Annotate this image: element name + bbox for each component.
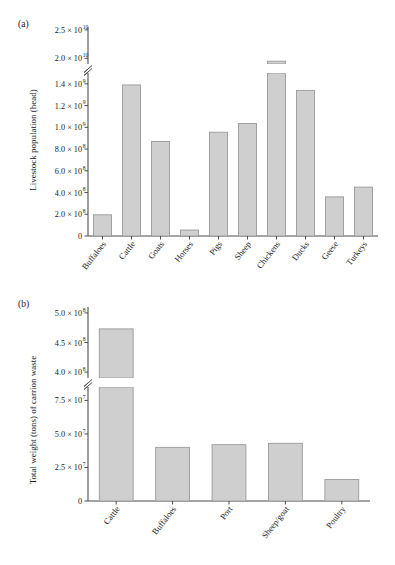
x-axis-labels-a: BuffaloesCattleGoatsHorsesPigsSheepChick… <box>80 236 370 271</box>
y-tick-exponent: 7 <box>83 428 86 434</box>
panel-label-a: (a) <box>18 19 29 30</box>
y-tick-label: 2.0 × 10 <box>55 210 82 219</box>
bar-upper-segment <box>99 329 133 378</box>
bar <box>210 132 228 236</box>
y-tick-label: 2.5 × 10 <box>55 463 82 472</box>
bar <box>181 230 199 236</box>
x-tick-label: Turkeys <box>344 239 369 268</box>
y-tick-exponent: 7 <box>83 394 86 400</box>
y-tick-exponent: 8 <box>83 165 86 171</box>
x-tick-label: Ducks <box>290 239 312 263</box>
bar <box>152 141 170 236</box>
y-tick-exponent: 9 <box>83 78 86 84</box>
x-tick-label: Sheep <box>232 239 253 262</box>
axis-break-gap <box>89 64 378 73</box>
y-tick-exponent: 8 <box>83 208 86 214</box>
x-tick-label: Chickens <box>255 239 283 271</box>
y-tick-label: 4.0 × 10 <box>55 189 82 198</box>
svg-text:Livestock population (head): Livestock population (head) <box>28 89 38 190</box>
bar-upper-segment <box>268 61 286 64</box>
chart-panel-a: (a) Livestock population (head) 02.0 × 1… <box>0 0 395 290</box>
y-axis-ticks-a: 02.0 × 1084.0 × 1086.0 × 1088.0 × 1081.0… <box>55 24 89 241</box>
svg-text:Total weight (tons) of carrion: Total weight (tons) of carrion waste <box>28 356 38 485</box>
x-tick-label: Cattle <box>117 239 138 261</box>
panel-label-b: (b) <box>18 299 29 310</box>
x-tick-label: Geese <box>319 239 340 262</box>
bar-lower-segment <box>268 73 286 236</box>
y-tick-label: 4.5 × 10 <box>55 339 82 348</box>
bar-lower-segment <box>99 387 133 501</box>
x-axis-labels-b: CattleBuffaloesPortSheep/goatPoultry <box>101 501 348 540</box>
y-tick-label: 1.4 × 10 <box>55 80 82 89</box>
x-tick-label: Poultry <box>324 504 348 531</box>
y-tick-label: 0 <box>78 232 82 241</box>
bar-series-b <box>84 329 370 501</box>
chart-svg-b: (b) Total weight (tons) of carrion waste… <box>0 285 395 565</box>
y-tick-label: 4.0 × 10 <box>55 368 82 377</box>
y-tick-label: 5.0 × 10 <box>55 309 82 318</box>
bar <box>123 85 141 236</box>
y-tick-label: 6.0 × 10 <box>55 167 82 176</box>
y-tick-exponent: 8 <box>83 366 86 372</box>
bar <box>156 447 190 501</box>
x-tick-label: Buffaloes <box>80 239 109 272</box>
axis-break-gap <box>89 378 370 387</box>
bar <box>326 197 344 236</box>
bar <box>297 90 315 236</box>
x-tick-label: Cattle <box>101 504 122 526</box>
bar <box>94 215 112 236</box>
y-axis-ticks-b: 02.5 × 1075.0 × 1077.5 × 1074.0 × 1084.5… <box>55 307 88 506</box>
y-tick-exponent: 7 <box>83 461 86 467</box>
y-tick-exponent: 9 <box>83 99 86 105</box>
x-tick-label: Goats <box>146 239 167 261</box>
figure-page: (a) Livestock population (head) 02.0 × 1… <box>0 0 395 565</box>
y-tick-label: 2.5 × 10 <box>55 26 82 35</box>
y-axis-title-a: Livestock population (head) <box>28 89 38 190</box>
y-tick-label: 0 <box>78 497 82 506</box>
y-tick-label: 1.0 × 10 <box>55 123 82 132</box>
bar <box>212 445 246 501</box>
y-tick-exponent: 8 <box>83 336 86 342</box>
y-tick-label: 5.0 × 10 <box>55 430 82 439</box>
chart-svg-a: (a) Livestock population (head) 02.0 × 1… <box>0 0 395 290</box>
y-tick-label: 1.2 × 10 <box>55 102 82 111</box>
y-tick-exponent: 8 <box>83 143 86 149</box>
y-tick-label: 8.0 × 10 <box>55 145 82 154</box>
x-tick-label: Horses <box>172 239 195 264</box>
x-tick-label: Buffaloes <box>150 504 179 537</box>
bar <box>355 187 373 236</box>
bar <box>268 443 302 501</box>
y-axis-title-b: Total weight (tons) of carrion waste <box>28 356 38 485</box>
x-tick-label: Sheep/goat <box>260 504 292 541</box>
bar <box>239 124 257 236</box>
y-tick-exponent: 9 <box>83 121 86 127</box>
y-tick-exponent: 8 <box>83 186 86 192</box>
x-tick-label: Pigs <box>207 239 224 257</box>
bar-series-a <box>84 61 378 236</box>
y-tick-label: 7.5 × 10 <box>55 396 82 405</box>
chart-panel-b: (b) Total weight (tons) of carrion waste… <box>0 285 395 565</box>
y-tick-exponent: 8 <box>83 307 86 313</box>
x-tick-label: Port <box>218 504 235 522</box>
y-tick-label: 2.0 × 10 <box>55 54 82 63</box>
bar <box>325 480 359 501</box>
